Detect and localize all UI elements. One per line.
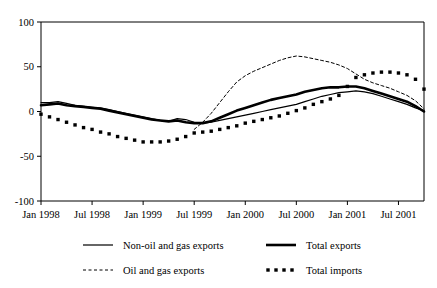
legend-item-2[interactable]: Oil and gas exports xyxy=(83,265,204,276)
line-chart: -100-50050100 Jan 1998Jul 1998Jan 1999Ju… xyxy=(0,0,437,288)
data-point-marker xyxy=(354,76,357,79)
series-0-line xyxy=(41,91,424,123)
data-point-marker xyxy=(388,70,391,73)
data-point-marker xyxy=(184,135,187,138)
data-point-marker xyxy=(158,140,161,143)
legend-label: Total exports xyxy=(306,240,361,251)
y-tick-label: -100 xyxy=(15,196,34,207)
data-point-marker xyxy=(210,129,213,132)
x-tick-label: Jul 1999 xyxy=(176,209,212,220)
data-point-marker xyxy=(116,135,119,138)
data-point-marker xyxy=(56,118,59,121)
data-point-marker xyxy=(235,124,238,127)
data-point-marker xyxy=(303,106,306,109)
data-point-marker xyxy=(329,97,332,100)
legend-swatch-dotted xyxy=(274,268,277,271)
data-point-marker xyxy=(73,123,76,126)
y-tick-label: 100 xyxy=(18,17,34,28)
legend-swatch-dotted xyxy=(266,268,269,271)
data-point-marker xyxy=(193,131,196,134)
x-tick-label: Jul 2001 xyxy=(381,209,417,220)
data-point-marker xyxy=(422,87,425,90)
data-point-marker xyxy=(150,140,153,143)
data-point-marker xyxy=(380,70,383,73)
data-point-marker xyxy=(39,112,42,115)
data-point-marker xyxy=(167,139,170,142)
x-tick-label: Jul 2000 xyxy=(278,209,314,220)
data-point-marker xyxy=(175,138,178,141)
data-point-marker xyxy=(65,121,68,124)
data-point-marker xyxy=(269,116,272,119)
data-point-marker xyxy=(252,120,255,123)
data-point-marker xyxy=(278,114,281,117)
data-point-marker xyxy=(244,121,247,124)
data-point-marker xyxy=(320,100,323,103)
legend-label: Oil and gas exports xyxy=(123,265,204,276)
data-point-marker xyxy=(218,128,221,131)
y-tick-label: 0 xyxy=(29,106,34,117)
data-point-marker xyxy=(295,109,298,112)
x-axis-tick-labels: Jan 1998Jul 1998Jan 1999Jul 1999Jan 2000… xyxy=(22,209,416,220)
y-axis-tick-labels: -100-50050100 xyxy=(15,17,34,207)
data-point-marker xyxy=(48,115,51,118)
legend-item-3[interactable]: Total imports xyxy=(266,265,362,276)
data-point-marker xyxy=(405,73,408,76)
data-point-marker xyxy=(227,126,230,129)
data-point-marker xyxy=(141,140,144,143)
data-point-marker xyxy=(261,118,264,121)
data-point-marker xyxy=(346,85,349,88)
legend-swatch-dotted xyxy=(290,268,293,271)
chart-series-group xyxy=(39,56,425,144)
x-tick-label: Jan 1998 xyxy=(22,209,60,220)
y-tick-label: -50 xyxy=(20,151,34,162)
data-point-marker xyxy=(371,71,374,74)
chart-figure: -100-50050100 Jan 1998Jul 1998Jan 1999Ju… xyxy=(0,0,437,288)
legend-swatch-dotted xyxy=(282,268,285,271)
data-point-marker xyxy=(107,132,110,135)
legend-item-1[interactable]: Total exports xyxy=(266,240,361,251)
y-tick-label: 50 xyxy=(24,61,35,72)
data-point-marker xyxy=(124,137,127,140)
data-point-marker xyxy=(286,112,289,115)
data-point-marker xyxy=(90,128,93,131)
legend-label: Non-oil and gas exports xyxy=(123,240,224,251)
x-tick-label: Jul 1998 xyxy=(74,209,110,220)
data-point-marker xyxy=(312,103,315,106)
data-point-marker xyxy=(337,94,340,97)
data-point-marker xyxy=(397,71,400,74)
data-point-marker xyxy=(99,130,102,133)
data-point-marker xyxy=(82,126,85,129)
data-point-marker xyxy=(414,78,417,81)
legend-label: Total imports xyxy=(306,265,362,276)
data-point-marker xyxy=(201,130,204,133)
x-tick-label: Jan 1999 xyxy=(124,209,162,220)
chart-legend: Non-oil and gas exportsTotal exportsOil … xyxy=(83,240,362,276)
data-point-marker xyxy=(363,73,366,76)
data-point-marker xyxy=(133,138,136,141)
x-tick-label: Jan 2000 xyxy=(226,209,264,220)
legend-item-0[interactable]: Non-oil and gas exports xyxy=(83,240,224,251)
x-tick-label: Jan 2001 xyxy=(329,209,367,220)
